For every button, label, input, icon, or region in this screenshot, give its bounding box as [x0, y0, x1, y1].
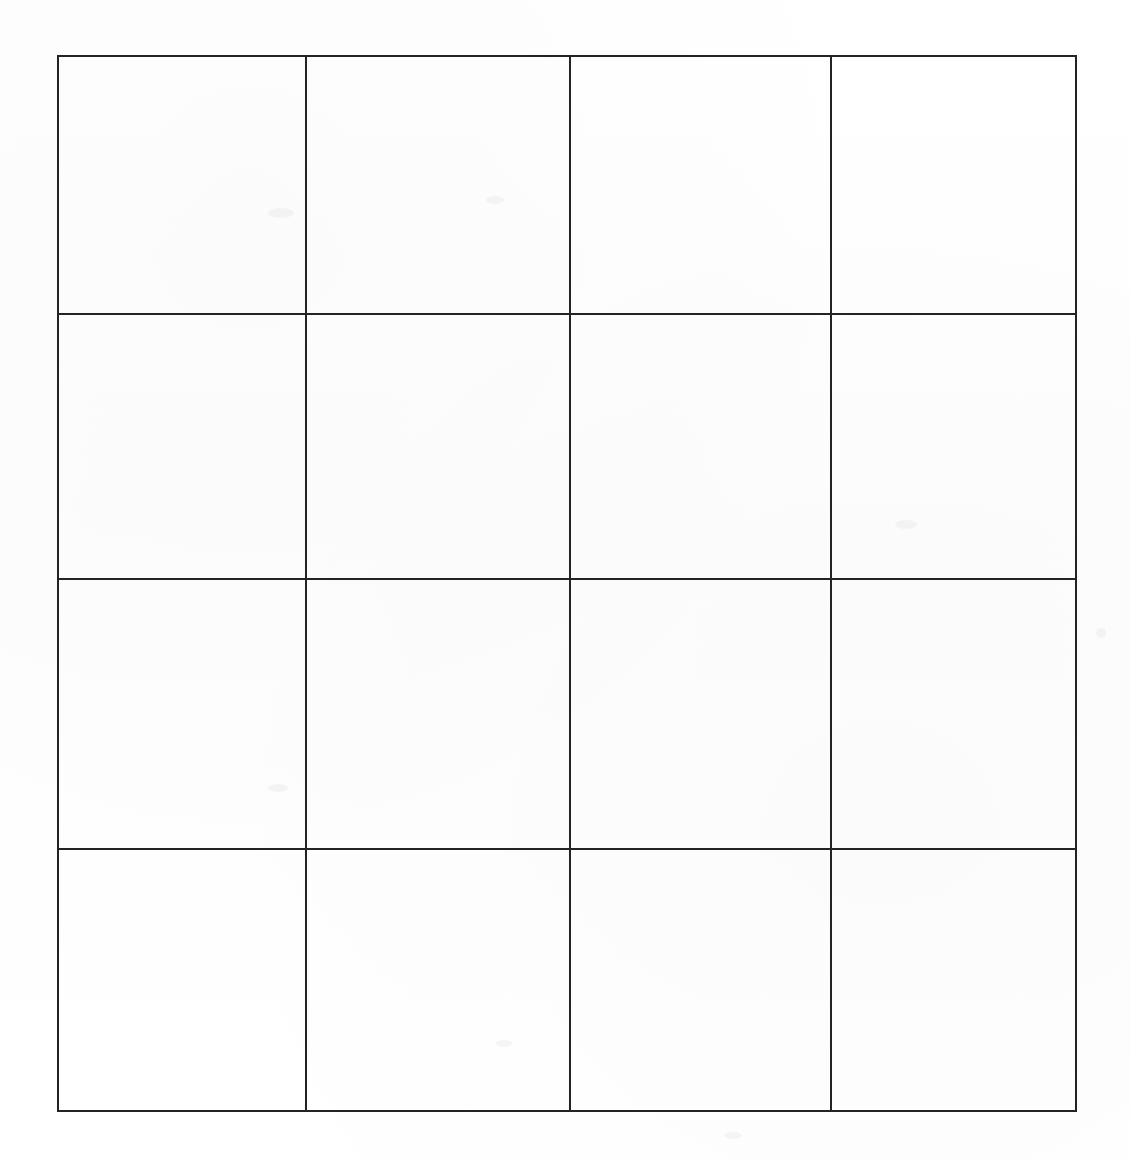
grid-cell-r3c3[interactable]	[570, 579, 831, 849]
grid-cell-text	[571, 580, 830, 848]
grid-cell-r1c1[interactable]	[58, 56, 306, 314]
grid-cell-text	[832, 850, 1075, 1110]
grid-cell-text	[59, 315, 305, 578]
scan-speckle	[724, 1132, 742, 1139]
grid-cell-r2c4[interactable]	[831, 314, 1076, 579]
scan-speckle	[1096, 628, 1106, 638]
table-row	[58, 579, 1076, 849]
grid-cell-text	[832, 315, 1075, 578]
grid-cell-text	[571, 850, 830, 1110]
grid-cell-r4c1[interactable]	[58, 849, 306, 1111]
grid-cell-text	[59, 580, 305, 848]
grid-cell-text	[307, 315, 569, 578]
grid-cell-r4c2[interactable]	[306, 849, 570, 1111]
grid-cell-text	[832, 57, 1075, 313]
grid-cell-text	[307, 850, 569, 1110]
grid-cell-r1c3[interactable]	[570, 56, 831, 314]
table-row	[58, 849, 1076, 1111]
grid-cell-text	[307, 57, 569, 313]
grid-cell-r4c4[interactable]	[831, 849, 1076, 1111]
grid-cell-r4c3[interactable]	[570, 849, 831, 1111]
grid-cell-text	[59, 57, 305, 313]
grid-cell-r2c2[interactable]	[306, 314, 570, 579]
grid-cell-text	[307, 580, 569, 848]
grid-cell-r3c4[interactable]	[831, 579, 1076, 849]
grid-cell-text	[571, 57, 830, 313]
grid-cell-r3c2[interactable]	[306, 579, 570, 849]
grid-cell-r2c3[interactable]	[570, 314, 831, 579]
grid-cell-r2c1[interactable]	[58, 314, 306, 579]
grid-cell-r3c1[interactable]	[58, 579, 306, 849]
table-row	[58, 56, 1076, 314]
grid-cell-r1c2[interactable]	[306, 56, 570, 314]
grid-cell-r1c4[interactable]	[831, 56, 1076, 314]
page-canvas	[0, 0, 1130, 1161]
grid-cell-text	[832, 580, 1075, 848]
grid-cell-text	[571, 315, 830, 578]
grid-table	[57, 55, 1077, 1112]
grid-cell-text	[59, 850, 305, 1110]
table-row	[58, 314, 1076, 579]
